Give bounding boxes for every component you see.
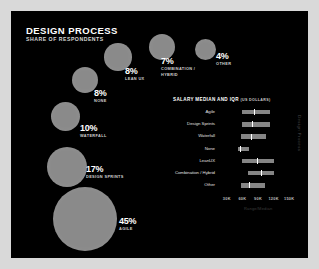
salary-row: Combination / Hybrid [151, 170, 303, 179]
bubble-label: LEAN UX [125, 76, 145, 82]
side-label: Design Process [297, 115, 302, 151]
bubble-label: WATERFALL [80, 133, 107, 139]
salary-median-marker [249, 182, 250, 188]
salary-row: None [151, 146, 303, 155]
axis-tick-label: 150K [284, 196, 294, 201]
bubble-design-sprints [47, 147, 87, 187]
salary-row-label: Agile [151, 109, 215, 114]
bubble-value: 7% [161, 56, 174, 66]
salary-row: Other [151, 182, 303, 191]
axis-tick-label: 60K [238, 196, 246, 201]
salary-row-label: LeanUX [151, 158, 215, 163]
salary-row-label: Design Sprints [151, 121, 215, 126]
bubble-label: DESIGN SPRINTS [86, 174, 124, 180]
salary-row-label: Combination / Hybrid [151, 170, 215, 175]
salary-row-label: Waterfall [151, 133, 215, 138]
salary-median-marker [254, 109, 255, 115]
bubble-label: OTHER [216, 61, 231, 67]
salary-chart-title: SALARY MEDIAN AND IQR (US DOLLARS) [173, 97, 270, 102]
salary-median-marker [251, 134, 252, 140]
salary-range-bar [242, 159, 274, 163]
bubble-value: 4% [216, 51, 229, 61]
page-title: DESIGN PROCESS [26, 25, 118, 36]
bubble-value: 10% [80, 123, 97, 133]
salary-median-marker [261, 170, 262, 176]
bubble-value: 17% [86, 164, 103, 174]
salary-range-bar [241, 183, 265, 187]
salary-row-label: Other [151, 182, 215, 187]
axis-tick-label: 30K [223, 196, 231, 201]
salary-chart: SALARY MEDIAN AND IQR (US DOLLARS) Agile… [151, 97, 303, 232]
salary-row: Agile [151, 109, 303, 118]
salary-range-bar [242, 110, 270, 114]
salary-row: LeanUX [151, 158, 303, 167]
bubble-value: 8% [125, 66, 138, 76]
salary-row: Design Sprints [151, 121, 303, 130]
infographic-poster: DESIGN PROCESS SHARE OF RESPONDENTS 4%OT… [11, 11, 308, 258]
bubble-label: AGILE [119, 226, 133, 232]
bubble-agile [53, 187, 117, 251]
salary-range-bar [242, 122, 270, 126]
salary-median-marker [240, 146, 241, 152]
bubble-value: 8% [94, 88, 107, 98]
bubble-waterfall [51, 102, 80, 131]
axis-tick-label: 90K [254, 196, 262, 201]
bubble-value: 45% [119, 216, 136, 226]
bubble-label: COMBINATION / HYBRID [161, 66, 195, 78]
bubble-other [195, 39, 216, 60]
salary-median-marker [257, 158, 258, 164]
salary-median-marker [252, 121, 253, 127]
bubble-label: NONE [94, 98, 107, 104]
salary-range-bar [241, 134, 266, 138]
salary-row-label: None [151, 146, 215, 151]
salary-row: Waterfall [151, 133, 303, 142]
page-subtitle: SHARE OF RESPONDENTS [26, 36, 104, 42]
axis-caption: Range/Median [244, 206, 272, 211]
axis-tick-label: 120K [268, 196, 278, 201]
